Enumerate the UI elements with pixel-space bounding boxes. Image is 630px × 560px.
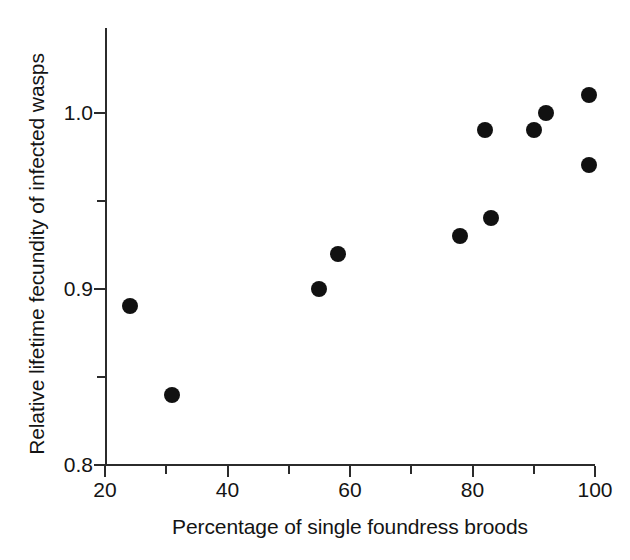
y-axis-tick-major	[94, 288, 105, 290]
y-axis-tick-minor	[97, 200, 105, 202]
y-axis-tick-label: 0.9	[33, 277, 93, 301]
x-axis-tick-major	[594, 466, 596, 477]
data-point	[581, 87, 597, 103]
data-point	[164, 387, 180, 403]
x-axis-tick-label: 20	[70, 478, 140, 502]
x-axis-label: Percentage of single foundress broods	[105, 515, 595, 539]
data-point	[477, 122, 493, 138]
data-point	[330, 246, 346, 262]
y-axis-tick-label: 1.0	[33, 101, 93, 125]
y-axis-label: Relative lifetime fecundity of infected …	[14, 14, 60, 494]
y-axis-tick-minor	[97, 376, 105, 378]
x-axis-tick-major	[472, 466, 474, 477]
scatter-plot-figure: Relative lifetime fecundity of infected …	[0, 0, 630, 560]
x-axis-tick-label: 40	[193, 478, 263, 502]
x-axis-tick-minor	[165, 466, 167, 474]
data-point	[526, 122, 542, 138]
x-axis-tick-label: 80	[438, 478, 508, 502]
x-axis-tick-major	[349, 466, 351, 477]
y-axis-tick-major	[94, 112, 105, 114]
data-point	[538, 105, 554, 121]
x-axis-tick-major	[104, 466, 106, 477]
x-axis-tick-label: 60	[315, 478, 385, 502]
x-axis-tick-minor	[533, 466, 535, 474]
data-point	[122, 298, 138, 314]
y-axis-tick-label: 0.8	[33, 453, 93, 477]
x-axis-tick-minor	[288, 466, 290, 474]
x-axis-tick-label: 100	[560, 478, 630, 502]
x-axis-tick-major	[227, 466, 229, 477]
x-axis-tick-minor	[410, 466, 412, 474]
